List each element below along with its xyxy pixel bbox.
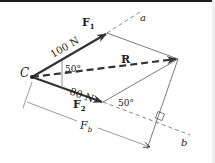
axis-a-line bbox=[107, 12, 140, 33]
point-c bbox=[30, 75, 34, 79]
force1-magnitude: 100 N bbox=[49, 35, 82, 60]
parallelogram-side-bottom bbox=[103, 59, 178, 102]
resultant-label: R bbox=[121, 53, 131, 66]
fb-dimension-right bbox=[98, 128, 150, 147]
diagram-canvas: C 100 N F1 80 N F2 R 50° 50° a b Fb bbox=[0, 0, 215, 163]
fb-dimension-left bbox=[27, 102, 77, 121]
resultant-arrow bbox=[32, 59, 176, 77]
perpendicular-line bbox=[147, 59, 178, 149]
force1-symbol: F1 bbox=[82, 16, 95, 31]
fb-label: Fb bbox=[79, 119, 93, 134]
fb-extension-line bbox=[23, 82, 32, 108]
axis-b-label: b bbox=[181, 137, 187, 148]
right-angle-icon bbox=[156, 112, 165, 121]
angle-f2-label: 50° bbox=[118, 98, 134, 108]
point-c-label: C bbox=[20, 66, 29, 80]
axis-b-line bbox=[103, 102, 190, 135]
force-diagram: C 100 N F1 80 N F2 R 50° 50° a b Fb bbox=[0, 0, 215, 163]
angle-c-label: 50° bbox=[65, 64, 81, 74]
parallelogram-side-top bbox=[107, 33, 178, 59]
axis-a-label: a bbox=[140, 12, 146, 23]
